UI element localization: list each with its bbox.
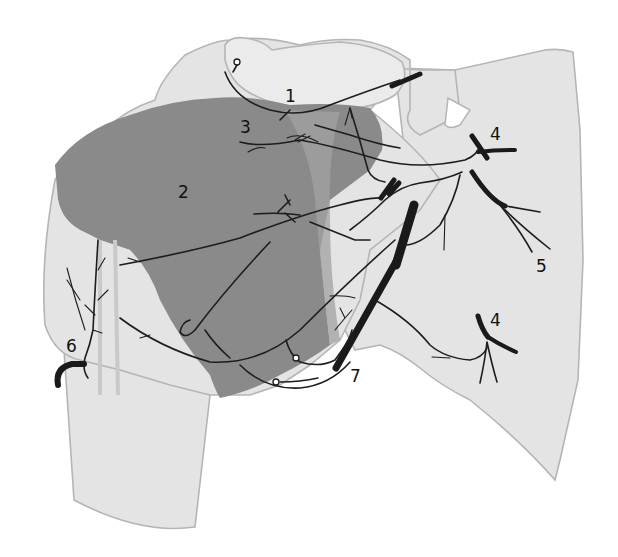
nerve-end-ring (273, 379, 279, 385)
shoulder-anatomy-diagram: 1 2 3 4 4 5 6 7 (0, 0, 618, 557)
label-6: 6 (66, 336, 77, 356)
vessel-4-upper-branch (478, 150, 515, 152)
nerve-end-ring (234, 59, 240, 65)
nerve-end-ring (293, 355, 299, 361)
label-4-upper: 4 (490, 124, 501, 144)
label-3: 3 (240, 117, 251, 137)
label-1: 1 (285, 86, 296, 106)
label-2: 2 (178, 182, 189, 202)
label-7: 7 (350, 366, 361, 386)
label-4-lower: 4 (490, 310, 501, 330)
label-5: 5 (536, 256, 547, 276)
